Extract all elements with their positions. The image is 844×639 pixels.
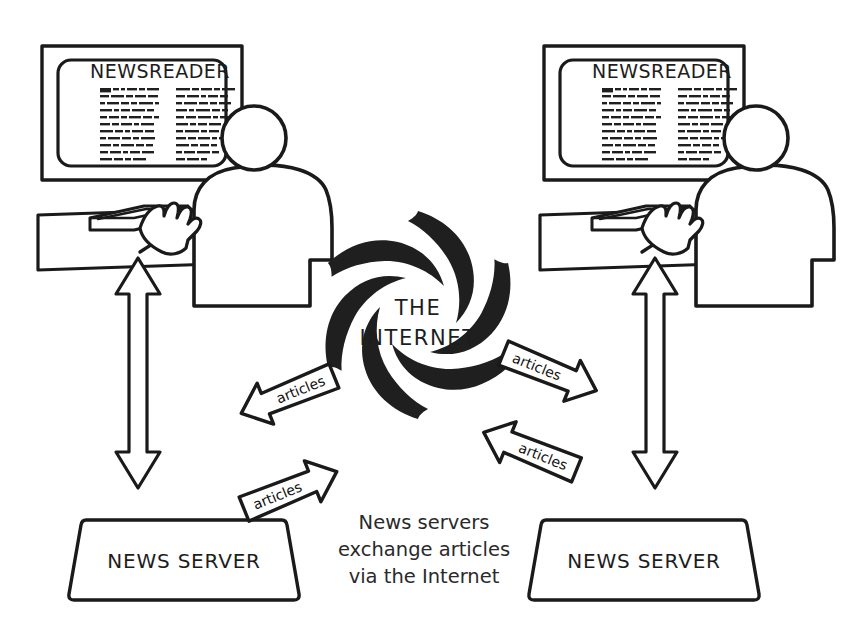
internet-label-line1: THE xyxy=(394,296,442,320)
left-workstation: NEWSREADER NE xyxy=(38,46,332,600)
right-news-server: NEWS SERVER xyxy=(529,520,759,600)
news-network-diagram: NEWSREADER NE xyxy=(0,0,844,639)
right-link-arrow xyxy=(633,258,677,488)
exchange-arrow-right-in: articles xyxy=(476,412,585,490)
caption: News servers exchange articles via the I… xyxy=(338,511,510,588)
left-news-server-label: NEWS SERVER xyxy=(107,549,261,573)
diagram-canvas: NEWSREADER NE xyxy=(0,0,844,639)
right-screen-title: NEWSREADER xyxy=(592,60,732,82)
exchange-arrow-left-in: articles xyxy=(233,356,342,434)
caption-line-1: News servers xyxy=(359,511,490,534)
right-news-server-label: NEWS SERVER xyxy=(567,549,721,573)
exchange-arrow-right-out: articles xyxy=(495,333,604,411)
caption-line-2: exchange articles xyxy=(338,538,510,561)
internet-label-line2: INTERNET xyxy=(359,326,476,350)
left-news-server: NEWS SERVER xyxy=(69,520,299,600)
left-screen-title: NEWSREADER xyxy=(90,60,230,82)
left-link-arrow xyxy=(116,258,160,488)
caption-line-3: via the Internet xyxy=(349,565,500,588)
exchange-arrow-left-out: articles xyxy=(236,451,345,529)
right-workstation: NEWSREADER NEWS SERVER xyxy=(529,46,834,600)
